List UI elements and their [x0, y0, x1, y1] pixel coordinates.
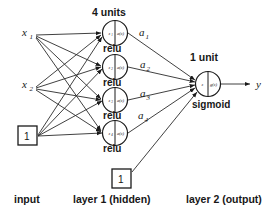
input-x2-subscript: 2: [30, 85, 34, 93]
input-x2: x 2: [21, 78, 34, 93]
input-bias-label: 1: [24, 131, 30, 142]
hidden-bias-label: 1: [118, 174, 124, 185]
input-x1-label: x: [21, 26, 27, 38]
hidden-node-2-activation-label: relu: [103, 77, 121, 88]
hidden-node-2-z: z: [108, 65, 111, 70]
activation-label-a4: a 4: [138, 109, 149, 124]
neural-network-diagram: z 1 a(z) relu z 2 a(z) relu z 3 a(z) rel…: [0, 0, 277, 214]
a4-label: a: [138, 109, 144, 121]
edges-hidden-to-output: [128, 33, 197, 172]
hidden-node-3[interactable]: z 3 a(z): [103, 88, 128, 113]
input-x2-label: x: [21, 78, 27, 90]
input-bias-node[interactable]: 1: [18, 126, 37, 145]
hidden-node-4-activation-label: relu: [103, 143, 121, 154]
bottom-label-input: input: [14, 193, 40, 205]
hidden-node-1[interactable]: z 1 a(z): [103, 21, 128, 46]
hidden-node-4[interactable]: z 4 a(z): [103, 121, 128, 146]
hidden-node-2[interactable]: z 2 a(z): [103, 55, 128, 80]
activation-label-a1: a 1: [139, 26, 149, 41]
hidden-node-3-z: z: [108, 98, 111, 103]
a2-label: a: [140, 58, 146, 70]
a3-label: a: [140, 87, 146, 99]
output-node[interactable]: z g(z): [196, 72, 221, 97]
bottom-label-layer2: layer 2 (output): [186, 193, 262, 205]
hidden-node-3-activation-label: relu: [103, 110, 121, 121]
a3-subscript: 3: [146, 94, 151, 102]
a1-subscript: 1: [146, 33, 150, 41]
hidden-node-3-a: a(z): [117, 98, 125, 103]
hidden-node-1-z: z: [108, 31, 111, 36]
a2-subscript: 2: [147, 65, 151, 73]
network-output-label: y: [255, 78, 261, 90]
input-x1: x 1: [21, 26, 33, 41]
edges-input-to-hidden: [36, 33, 102, 136]
output-activation-label: sigmoid: [192, 99, 230, 110]
hidden-node-2-a: a(z): [117, 65, 125, 70]
hidden-node-4-z: z: [108, 131, 111, 136]
output-node-g: g(z): [210, 82, 218, 87]
activation-label-a3: a 3: [140, 87, 151, 102]
hidden-node-1-a: a(z): [117, 31, 125, 36]
output-layer-units-header: 1 unit: [190, 51, 219, 63]
a1-label: a: [139, 26, 145, 38]
output-node-z: z: [201, 82, 204, 87]
hidden-layer-units-header: 4 units: [92, 6, 126, 18]
hidden-node-1-activation-label: relu: [103, 43, 121, 54]
bottom-label-layer1: layer 1 (hidden): [73, 193, 151, 205]
input-x1-subscript: 1: [30, 33, 34, 41]
hidden-node-4-a: a(z): [117, 131, 125, 136]
diagram-canvas: z 1 a(z) relu z 2 a(z) relu z 3 a(z) rel…: [0, 0, 277, 214]
a4-subscript: 4: [145, 116, 149, 124]
hidden-bias-node[interactable]: 1: [112, 169, 131, 188]
